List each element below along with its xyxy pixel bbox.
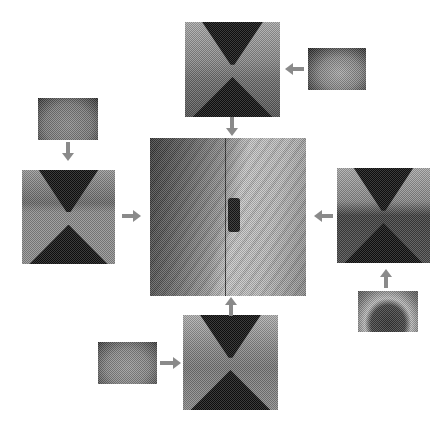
arrow-right-icon [122, 210, 142, 222]
center-surround-view [150, 138, 306, 296]
road-streaks [150, 138, 306, 296]
mask-top [185, 22, 280, 65]
arrow-up-icon [225, 296, 237, 316]
mask-top [183, 315, 278, 358]
mask-top [337, 168, 430, 211]
fisheye-thumb-bottom-left [98, 342, 157, 384]
mask-bottom [183, 370, 278, 410]
arrow-down-icon [226, 117, 238, 137]
perspective-view-top [185, 22, 280, 117]
arrow-left-icon [284, 63, 304, 75]
arrow-up-icon [380, 268, 392, 288]
perspective-view-left [22, 170, 115, 264]
fisheye-thumb-left-top [38, 98, 98, 140]
perspective-view-bottom [183, 315, 278, 410]
arrow-down-icon [62, 142, 74, 162]
mask-bottom [337, 223, 430, 263]
arrow-right-icon [160, 357, 182, 369]
mask-top [22, 170, 115, 212]
fisheye-thumb-right-bottom [358, 291, 418, 332]
fisheye-thumb-top-right [308, 48, 366, 90]
perspective-view-right [337, 168, 430, 263]
mask-bottom [22, 225, 115, 264]
arrow-left-icon [313, 210, 333, 222]
mask-bottom [185, 77, 280, 117]
